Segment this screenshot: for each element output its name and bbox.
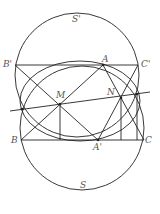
- label-s-prime: S': [72, 15, 81, 24]
- point-a: [102, 64, 105, 67]
- label-a-prime: A': [93, 143, 102, 152]
- line-c-prime-a-prime: [98, 65, 138, 140]
- point-intersection: [136, 93, 139, 96]
- label-a: A: [102, 55, 109, 64]
- point-n: [120, 97, 123, 100]
- point-a-prime: [97, 139, 100, 142]
- label-b-prime: B': [3, 60, 12, 69]
- circle-middle: [20, 61, 140, 141]
- line-b-prime-a-prime: [15, 65, 98, 140]
- label-b: B: [11, 136, 18, 145]
- label-c: C: [145, 136, 152, 145]
- point-m: [59, 103, 62, 106]
- point-left-intersection: [21, 108, 24, 111]
- label-m: M: [56, 91, 65, 100]
- label-n: N: [107, 88, 115, 97]
- label-c-prime: C': [141, 60, 150, 69]
- label-s: S: [80, 181, 86, 190]
- circle-s-prime: [15, 13, 139, 137]
